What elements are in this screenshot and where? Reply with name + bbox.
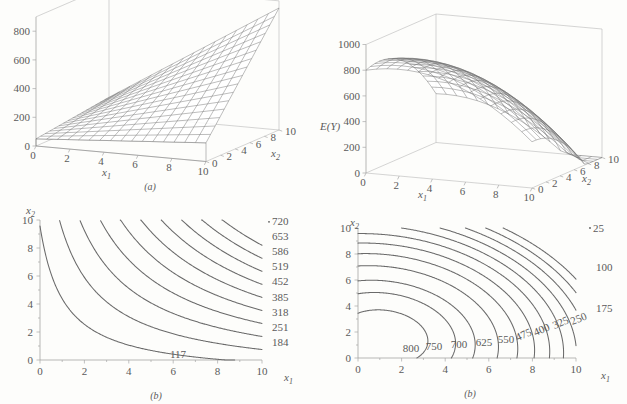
contour-label-117: 117 [170, 348, 187, 360]
z-tick-800: 800 [14, 25, 31, 37]
contour-label-318: 318 [272, 306, 289, 318]
x2-tick-2: 2 [227, 150, 233, 162]
x1-tick-8: 8 [215, 365, 221, 377]
panel-top-left-surface: 020040060080002468100246810 x1 x2 (a) [0, 0, 313, 202]
x1-tick-2: 2 [399, 363, 405, 375]
x1-tick-6: 6 [170, 365, 176, 377]
x2-tick-4: 4 [346, 300, 352, 312]
x1-tick-10: 10 [571, 363, 583, 375]
contour-label-625: 625 [476, 336, 493, 348]
contour-label-400: 400 [531, 320, 551, 338]
x2-tick-8: 8 [28, 242, 34, 254]
x1-tick-2: 2 [64, 152, 70, 164]
panel-caption-b: (b) [464, 388, 476, 400]
contour-label-184: 184 [272, 336, 289, 348]
contour-line-251 [80, 221, 262, 337]
x1-tick-8: 8 [166, 161, 172, 173]
x2-tick-10: 10 [608, 153, 620, 165]
x1-tick-4: 4 [427, 182, 433, 194]
x2-tick-2: 2 [28, 326, 34, 338]
x1-tick-6: 6 [460, 185, 466, 197]
x1-tick-10: 10 [257, 365, 269, 377]
ey-axis-label: E(Y) [319, 120, 341, 133]
x2-tick-6: 6 [28, 270, 34, 282]
z-tick-600: 600 [344, 90, 361, 102]
z-tick-200: 200 [14, 111, 31, 123]
contour-line-100 [486, 228, 576, 293]
z-tick-400: 400 [14, 82, 31, 94]
x2-tick-10: 10 [285, 125, 297, 137]
contour-line-175 [465, 228, 576, 310]
contour-label-586: 586 [272, 245, 289, 257]
x1-tick-4: 4 [442, 363, 448, 375]
x2-tick-2: 2 [552, 177, 558, 189]
z-tick-1000: 1000 [338, 38, 361, 50]
contour-label-385: 385 [272, 291, 289, 303]
contour-line-117 [40, 226, 235, 360]
x1-tick-6: 6 [132, 158, 138, 170]
z-tick-800: 800 [344, 64, 361, 76]
x2-tick-0: 0 [346, 352, 352, 364]
x2-axis-label: x2 [581, 172, 591, 187]
contour-label-251: 251 [272, 321, 289, 333]
x2-tick-6: 6 [346, 274, 352, 286]
contour-label-550: 550 [498, 333, 515, 345]
x1-axis-label: x1 [283, 371, 293, 386]
contour-line-586 [182, 220, 262, 271]
x2-tick-8: 8 [594, 159, 600, 171]
x2-tick-4: 4 [241, 144, 247, 156]
x1-tick-2: 2 [393, 179, 399, 191]
surface-plot-linear: 020040060080002468100246810 x1 x2 (a) [0, 0, 313, 202]
contour-label-653: 653 [272, 230, 289, 242]
contour-label-519: 519 [272, 260, 289, 272]
z-tick-600: 600 [14, 54, 31, 66]
contour-line-653 [201, 220, 262, 258]
x1-tick-0: 0 [355, 363, 361, 375]
panel-bottom-right-contour: 02468100246810 2510017525032540047555062… [314, 200, 627, 404]
contour-label-marker [589, 227, 591, 229]
x1-tick-0: 0 [360, 176, 366, 188]
x1-tick-8: 8 [530, 363, 536, 375]
surface-plot-quadratic: 0200400600800100002468100246810 E(Y) x1 … [314, 0, 627, 202]
contour-line-318 [101, 221, 262, 324]
x2-tick-4: 4 [28, 298, 34, 310]
x1-tick-2: 2 [82, 365, 88, 377]
x1-tick-10: 10 [198, 165, 210, 177]
panel-caption-b: (b) [150, 390, 162, 402]
x1-axis-label: x1 [600, 369, 610, 384]
x2-tick-4: 4 [566, 171, 572, 183]
contour-label-250: 250 [569, 309, 589, 326]
z-tick-200: 200 [344, 141, 361, 153]
x2-axis-label: x2 [270, 147, 280, 162]
x2-tick-6: 6 [256, 138, 262, 150]
panel-top-right-surface: 0200400600800100002468100246810 E(Y) x1 … [314, 0, 627, 202]
z-tick-400: 400 [344, 115, 361, 127]
x2-tick-8: 8 [346, 248, 352, 260]
x2-tick-0: 0 [28, 354, 34, 366]
contour-label-750: 750 [426, 340, 443, 352]
contour-line-452 [141, 220, 262, 297]
x1-axis-label: x1 [101, 166, 111, 181]
panel-bottom-left-contour: 02468100246810 7206535865194523853182511… [0, 200, 313, 404]
x2-tick-0: 0 [538, 183, 544, 195]
x1-tick-8: 8 [493, 188, 499, 200]
contour-line-720 [222, 220, 262, 245]
contour-label-25: 25 [593, 222, 605, 234]
x1-tick-4: 4 [126, 365, 132, 377]
x2-tick-0: 0 [212, 157, 218, 169]
panel-caption-a: (a) [144, 181, 156, 193]
contour-label-175: 175 [596, 302, 613, 314]
figure-root: 020040060080002468100246810 x1 x2 (a) 02… [0, 0, 627, 404]
contour-label-marker [268, 221, 270, 223]
contour-line-184 [60, 221, 262, 350]
x1-tick-6: 6 [486, 363, 492, 375]
x2-tick-8: 8 [270, 131, 276, 143]
x2-tick-2: 2 [346, 326, 352, 338]
contour-label-720: 720 [272, 215, 289, 227]
contour-label-800: 800 [403, 342, 420, 354]
contour-label-700: 700 [451, 338, 468, 350]
contour-label-452: 452 [272, 275, 289, 287]
x1-tick-0: 0 [37, 365, 43, 377]
contour-plot-linear: 02468100246810 7206535865194523853182511… [0, 200, 313, 404]
contour-label-100: 100 [596, 261, 613, 273]
